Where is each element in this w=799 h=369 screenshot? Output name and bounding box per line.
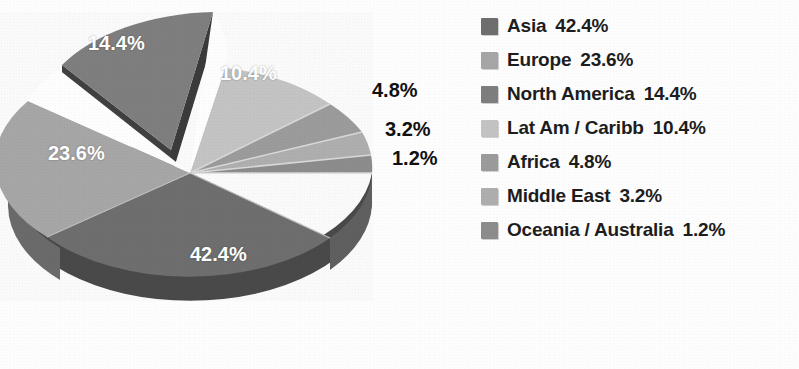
legend-swatch-north-america-icon [481, 86, 498, 103]
slice-label-lat-am-caribb: 10.4% [220, 62, 277, 85]
legend-value-middle-east: 3.2% [619, 185, 662, 207]
legend-item-africa[interactable]: Africa 4.8% [481, 145, 799, 179]
legend-value-oceania-australia: 1.2% [683, 219, 726, 241]
legend-swatch-asia-icon [481, 18, 498, 35]
pie-svg [0, 0, 470, 369]
legend-item-lat-am-caribb[interactable]: Lat Am / Caribb 10.4% [481, 111, 799, 145]
legend-label-north-america: North America [507, 83, 635, 105]
slice-label-africa: 4.8% [372, 79, 418, 102]
legend-value-north-america: 14.4% [644, 83, 697, 105]
legend-item-europe[interactable]: Europe 23.6% [481, 43, 799, 77]
right-slices-side-wall [330, 173, 372, 270]
legend-value-africa: 4.8% [569, 151, 612, 173]
legend-value-asia: 42.4% [555, 15, 608, 37]
legend-label-europe: Europe [507, 49, 571, 71]
legend-swatch-middle-east-icon [481, 188, 498, 205]
chart-legend: Asia 42.4% Europe 23.6% North America 14… [481, 9, 799, 247]
legend-label-oceania-australia: Oceania / Australia [507, 219, 674, 241]
legend-item-oceania-australia[interactable]: Oceania / Australia 1.2% [481, 213, 799, 247]
legend-swatch-europe-icon [481, 52, 498, 69]
legend-item-asia[interactable]: Asia 42.4% [481, 9, 799, 43]
legend-label-asia: Asia [507, 15, 546, 37]
legend-value-lat-am-caribb: 10.4% [653, 117, 706, 139]
pie-chart-figure: 14.4% 10.4% 23.6% 42.4% 4.8% 3.2% 1.2% A… [0, 0, 799, 369]
legend-value-europe: 23.6% [580, 49, 633, 71]
legend-item-north-america[interactable]: North America 14.4% [481, 77, 799, 111]
legend-swatch-oceania-australia-icon [481, 222, 498, 239]
legend-item-middle-east[interactable]: Middle East 3.2% [481, 179, 799, 213]
slice-label-oceania-australia: 1.2% [392, 147, 438, 170]
slice-label-middle-east: 3.2% [385, 118, 431, 141]
legend-label-africa: Africa [507, 151, 560, 173]
slice-label-asia: 42.4% [190, 243, 247, 266]
legend-label-lat-am-caribb: Lat Am / Caribb [507, 117, 644, 139]
slice-label-north-america: 14.4% [88, 32, 145, 55]
legend-label-middle-east: Middle East [507, 185, 610, 207]
pie-graphic: 14.4% 10.4% 23.6% 42.4% 4.8% 3.2% 1.2% [0, 0, 470, 369]
legend-swatch-lat-am-caribb-icon [481, 120, 498, 137]
slice-label-europe: 23.6% [48, 142, 105, 165]
legend-swatch-africa-icon [481, 154, 498, 171]
